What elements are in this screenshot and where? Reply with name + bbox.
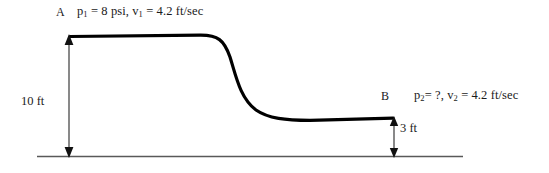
point-a-conditions: p1 = 8 psi, v1 = 4.2 ft/sec [77, 5, 203, 18]
point-a-label: A [56, 6, 65, 18]
point-b-label: B [381, 90, 389, 102]
point-b-pressure-value: = ?, [425, 88, 447, 102]
point-a-pressure-subscript: 1 [83, 9, 87, 19]
point-b-pressure-subscript: 2 [420, 93, 424, 103]
point-b-velocity-symbol: v [447, 88, 453, 102]
upstream-depth-label: 10 ft [21, 95, 44, 108]
point-b-velocity-subscript: 2 [454, 93, 458, 103]
diagram-vector-layer [0, 0, 549, 173]
point-b-velocity-value: = 4.2 ft/sec [458, 88, 518, 102]
downstream-depth-label: 3 ft [400, 122, 417, 135]
point-b-conditions: p2= ?, v2 = 4.2 ft/sec [414, 89, 518, 102]
diagram-canvas: A p1 = 8 psi, v1 = 4.2 ft/sec B p2= ?, v… [0, 0, 549, 173]
water-surface-curve [70, 35, 393, 120]
point-a-velocity-symbol: v [132, 4, 138, 18]
point-a-velocity-subscript: 1 [139, 9, 143, 19]
point-a-velocity-value: = 4.2 ft/sec [143, 4, 203, 18]
point-a-pressure-value: = 8 psi, [88, 4, 133, 18]
